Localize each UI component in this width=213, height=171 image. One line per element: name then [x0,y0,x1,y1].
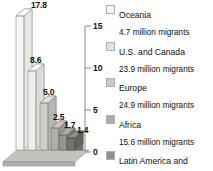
legend-swatch-icon-africa [106,115,115,124]
legend-item-oceania: Oceania 4.7 million migrants [106,4,213,39]
legend-item-us-and-canada: U.S. and Canada 23.9 million migrants [106,41,213,76]
legend-region-label-us-and-canada: U.S. and Canada [119,47,185,57]
legend-amount-label-us-and-canada: 23.9 million migrants [119,65,194,74]
legend-region-label-latin-america-and-the-caribbean: Latin America and the Caribbean [119,156,188,171]
legend-item-europe: Europe 24.9 million migrants [106,77,213,112]
bar-value-label-1: 17.8 [31,0,47,10]
chart-base-platform [3,150,89,166]
bar-value-label-4: 2.5 [53,112,64,122]
legend-region-label-oceania: Oceania [119,10,151,20]
chart-legend: Oceania 4.7 million migrants U.S. and Ca… [106,4,213,171]
legend-item-africa: Africa 15.6 million migrants [106,114,213,149]
legend-swatch-icon-oceania [106,5,115,14]
bar-value-label-6: 1.4 [77,125,88,135]
legend-swatch-icon-us-and-canada [106,42,115,51]
migration-bar-chart-figure: 17.8 8.6 5.0 2.5 1.7 1.4 15 10 5 0 Ocean… [0,0,213,171]
bar-chart-3d-graphic [0,0,104,171]
legend-swatch-icon-latin-america-and-the-caribbean [106,151,115,160]
legend-amount-label-africa: 15.6 million migrants [119,138,194,147]
bar-value-label-2: 8.6 [30,55,41,65]
y-tick-label-15: 15 [93,21,102,31]
y-tick-label-0: 0 [93,147,98,157]
legend-amount-label-europe: 24.9 million migrants [119,101,194,110]
bar-value-label-3: 5.0 [43,87,54,97]
bar-value-label-5: 1.7 [64,120,75,130]
legend-swatch-icon-europe [106,78,115,87]
chart-area: 17.8 8.6 5.0 2.5 1.7 1.4 15 10 5 0 [0,0,104,171]
legend-region-label-europe: Europe [119,83,147,93]
y-tick-label-5: 5 [93,105,98,115]
legend-region-label-africa: Africa [119,120,141,130]
legend-amount-label-oceania: 4.7 million migrants [119,28,190,37]
y-tick-label-10: 10 [93,63,102,73]
legend-item-latin-america-and-the-caribbean: Latin America and the Caribbean 7.5 mill… [106,150,213,171]
